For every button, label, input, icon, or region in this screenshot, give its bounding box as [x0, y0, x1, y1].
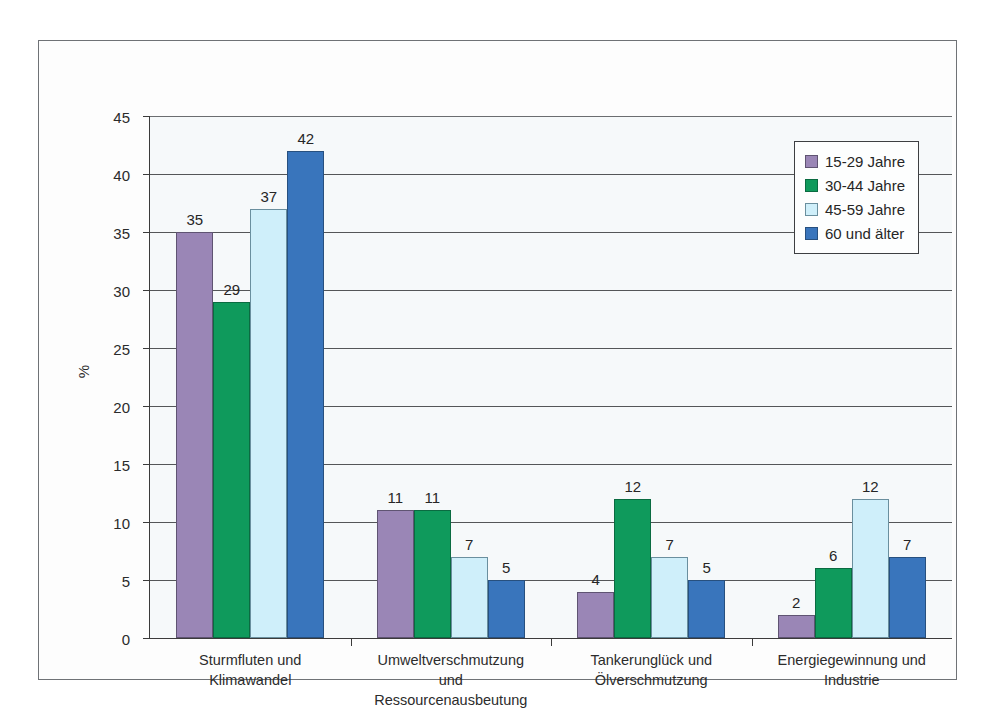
- y-axis-title: %: [75, 362, 92, 382]
- legend-color-swatch: [805, 203, 818, 216]
- gridline: [150, 116, 952, 117]
- y-axis-tick: 40: [143, 174, 150, 175]
- bar: 42: [287, 151, 324, 638]
- chart-frame: % 45403530252015105035293742Sturmfluten …: [38, 40, 957, 680]
- bar: 7: [651, 557, 688, 638]
- bar: 12: [852, 499, 889, 638]
- y-axis-tick: 5: [143, 580, 150, 581]
- bar: 11: [414, 510, 451, 638]
- bar-value-label: 7: [465, 536, 473, 553]
- legend-item-label: 45-59 Jahre: [825, 201, 905, 218]
- y-axis-tick: 10: [143, 522, 150, 523]
- y-axis-tick-label: 15: [113, 457, 130, 474]
- bar: 11: [377, 510, 414, 638]
- bar-value-label: 7: [903, 536, 911, 553]
- y-axis-tick-label: 40: [113, 167, 130, 184]
- bar-value-label: 11: [387, 489, 403, 506]
- legend-item-label: 15-29 Jahre: [825, 153, 905, 170]
- y-axis-tick-label: 30: [113, 283, 130, 300]
- category-label-line: Umweltverschmutzung: [351, 650, 552, 670]
- bar: 4: [577, 592, 614, 638]
- bar: 29: [213, 302, 250, 638]
- bar-value-label: 2: [792, 594, 800, 611]
- legend-item-label: 30-44 Jahre: [825, 177, 905, 194]
- legend-item: 45-59 Jahre: [805, 197, 905, 221]
- y-axis-tick: 30: [143, 290, 150, 291]
- y-axis-tick-label: 25: [113, 341, 130, 358]
- category-label-line: Klimawandel: [150, 670, 351, 690]
- bar: 35: [176, 232, 213, 638]
- legend-color-swatch: [805, 179, 818, 192]
- y-axis-tick-label: 5: [122, 573, 130, 590]
- legend-item: 60 und älter: [805, 221, 905, 245]
- y-axis-tick-label: 0: [122, 631, 130, 648]
- x-axis-category-label: Energiegewinnung undIndustrie: [752, 650, 953, 690]
- x-axis-separator: [351, 638, 352, 646]
- bar-value-label: 4: [592, 571, 600, 588]
- bar-value-label: 37: [260, 188, 277, 205]
- bar-value-label: 7: [666, 536, 674, 553]
- y-axis-tick-label: 45: [113, 109, 130, 126]
- legend-color-swatch: [805, 227, 818, 240]
- y-axis-tick: 15: [143, 464, 150, 465]
- bar: 5: [688, 580, 725, 638]
- y-axis-tick-label: 35: [113, 225, 130, 242]
- bar-value-label: 6: [829, 547, 837, 564]
- bar: 12: [614, 499, 651, 638]
- x-axis-separator: [551, 638, 552, 646]
- bar-value-label: 29: [223, 281, 240, 298]
- legend-item-label: 60 und älter: [825, 225, 904, 242]
- x-axis-separator: [752, 638, 753, 646]
- bar-value-label: 5: [502, 559, 510, 576]
- bar: 7: [451, 557, 488, 638]
- bar-value-label: 5: [703, 559, 711, 576]
- chart-legend: 15-29 Jahre30-44 Jahre45-59 Jahre60 und …: [794, 141, 919, 254]
- bar-value-label: 12: [624, 478, 641, 495]
- bar-value-label: 35: [186, 211, 203, 228]
- bar: 5: [488, 580, 525, 638]
- legend-item: 30-44 Jahre: [805, 173, 905, 197]
- y-axis-tick: 0: [143, 638, 150, 639]
- category-label-line: Ölverschmutzung: [551, 670, 752, 690]
- y-axis-tick-label: 10: [113, 515, 130, 532]
- x-axis-category-label: Tankerunglück undÖlverschmutzung: [551, 650, 752, 690]
- bar: 7: [889, 557, 926, 638]
- category-label-line: Ressourcenausbeutung: [351, 690, 552, 710]
- y-axis-tick: 35: [143, 232, 150, 233]
- y-axis-tick-label: 20: [113, 399, 130, 416]
- legend-item: 15-29 Jahre: [805, 149, 905, 173]
- category-label-line: Energiegewinnung und: [752, 650, 953, 670]
- bar-value-label: 42: [297, 130, 314, 147]
- bar: 6: [815, 568, 852, 638]
- y-axis-tick: 45: [143, 116, 150, 117]
- category-label-line: Sturmfluten und: [150, 650, 351, 670]
- bar: 2: [778, 615, 815, 638]
- bar: 37: [250, 209, 287, 638]
- legend-color-swatch: [805, 155, 818, 168]
- y-axis-tick: 20: [143, 406, 150, 407]
- x-axis-category-label: Sturmfluten undKlimawandel: [150, 650, 351, 690]
- y-axis-tick: 25: [143, 348, 150, 349]
- x-axis-category-label: UmweltverschmutzungundRessourcenausbeutu…: [351, 650, 552, 710]
- category-label-line: Tankerunglück und: [551, 650, 752, 670]
- bar-value-label: 12: [862, 478, 879, 495]
- category-label-line: Industrie: [752, 670, 953, 690]
- bar-value-label: 11: [424, 489, 440, 506]
- category-label-line: und: [351, 670, 552, 690]
